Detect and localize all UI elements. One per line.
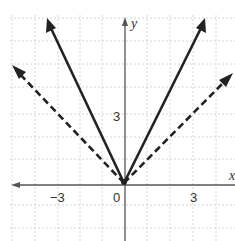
x-axis-label: x	[228, 168, 235, 183]
y-axis-label: y	[129, 16, 138, 31]
x-tick-0: 0	[113, 190, 120, 205]
y-tick-3: 3	[113, 109, 120, 124]
x-tick-neg3: −3	[50, 190, 65, 205]
x-tick-3: 3	[190, 190, 197, 205]
grid	[10, 15, 235, 241]
origin-vertex	[121, 179, 127, 185]
graph: y x −3 0 3 3	[0, 0, 235, 241]
axes	[11, 17, 235, 241]
